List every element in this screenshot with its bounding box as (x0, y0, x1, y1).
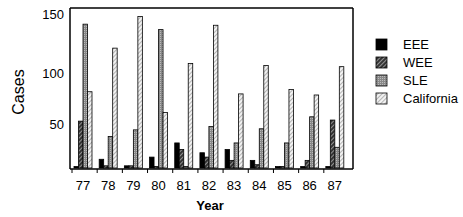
x-tick-label: 82 (202, 178, 216, 193)
bar-eee-82 (200, 153, 205, 168)
bar-wee-77 (79, 121, 84, 168)
bar-eee-84 (250, 160, 255, 168)
x-tick-label: 83 (227, 178, 241, 193)
x-tick-label: 79 (126, 178, 140, 193)
bar-sle-80 (159, 30, 164, 168)
bar-california-80 (163, 112, 168, 168)
y-axis-ticks: 50100150 (42, 7, 64, 132)
bar-sle-78 (108, 136, 113, 168)
bar-sle-79 (133, 130, 138, 168)
bar-california-78 (113, 48, 118, 168)
bar-wee-83 (230, 160, 235, 168)
bar-sle-84 (259, 129, 264, 168)
bar-eee-81 (175, 143, 180, 168)
bar-wee-81 (179, 149, 184, 168)
bar-wee-80 (154, 167, 159, 169)
x-tick-label: 77 (76, 178, 90, 193)
bar-california-87 (339, 67, 344, 168)
x-tick-label: 84 (252, 178, 266, 193)
bar-sle-77 (83, 24, 88, 168)
legend-swatch-eee (376, 39, 387, 50)
legend-label-eee: EEE (403, 37, 429, 52)
bar-eee-86 (301, 167, 306, 169)
x-tick-label: 85 (277, 178, 291, 193)
legend-swatch-wee (376, 57, 387, 68)
bar-wee-79 (129, 166, 134, 168)
bar-wee-86 (305, 160, 310, 168)
bars-group (74, 17, 344, 168)
bar-eee-77 (74, 167, 79, 169)
bar-sle-86 (310, 117, 315, 168)
x-tick-label: 80 (151, 178, 165, 193)
bar-california-82 (213, 25, 218, 168)
bar-california-86 (314, 95, 319, 168)
y-axis-title: Cases (10, 69, 27, 114)
bar-eee-79 (124, 166, 129, 168)
legend: EEEWEESLECalifornia (376, 37, 459, 106)
bar-california-83 (239, 94, 244, 168)
bar-eee-85 (275, 167, 280, 169)
bar-sle-82 (209, 127, 214, 168)
bar-eee-78 (99, 159, 104, 168)
legend-label-wee: WEE (403, 55, 433, 70)
bar-eee-83 (225, 149, 230, 168)
bar-sle-87 (335, 147, 340, 168)
bar-eee-87 (326, 167, 331, 169)
bar-california-81 (188, 63, 193, 168)
bar-wee-87 (330, 120, 335, 168)
bar-sle-83 (234, 143, 239, 168)
bar-wee-84 (255, 165, 259, 168)
x-tick-label: 86 (302, 178, 316, 193)
legend-label-california: California (403, 91, 459, 106)
legend-swatch-california (376, 93, 387, 104)
legend-label-sle: SLE (403, 73, 428, 88)
y-tick-label: 150 (42, 7, 64, 22)
x-tick-label: 87 (328, 178, 342, 193)
bar-california-77 (88, 92, 93, 168)
bar-wee-82 (204, 157, 209, 168)
y-tick-label: 100 (42, 66, 64, 81)
y-tick-label: 50 (50, 117, 64, 132)
x-tick-label: 81 (176, 178, 190, 193)
bar-wee-78 (104, 166, 109, 168)
x-axis-title: Year (196, 198, 223, 213)
bar-sle-85 (284, 143, 289, 168)
x-tick-label: 78 (101, 178, 115, 193)
bar-sle-81 (184, 167, 189, 169)
bar-california-84 (264, 66, 269, 168)
bar-california-79 (138, 17, 143, 168)
bar-california-85 (289, 90, 294, 168)
bar-eee-80 (150, 157, 155, 168)
legend-swatch-sle (376, 75, 387, 86)
chart: 7778798081828384858687 50100150 Cases Ye… (0, 0, 463, 217)
x-axis-ticks: 7778798081828384858687 (72, 169, 342, 193)
bar-wee-85 (280, 167, 285, 169)
